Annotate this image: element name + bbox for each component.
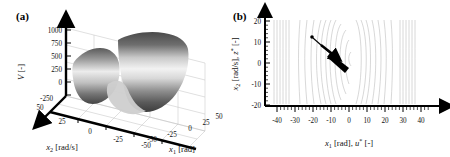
contour-x-tick-neg10: -10: [326, 117, 336, 125]
contour-x-tick-neg40: -40: [272, 117, 282, 125]
x1-tick-0: 0: [188, 125, 192, 133]
v-axis: [66, 26, 71, 96]
contour-y-tick-20: 20: [254, 18, 262, 26]
x1-tick-25: 25: [202, 119, 210, 127]
figure-container: (a): [0, 0, 450, 157]
v-tick-500: 500: [51, 53, 62, 61]
v-tick-neg250: -250: [40, 95, 54, 103]
x2-axis-label: x2 [rad/s]: [45, 142, 78, 153]
contour-x-axis: [265, 106, 441, 112]
cx-label-units: [rad],: [334, 138, 353, 148]
x2-tick-50: 50: [36, 104, 44, 112]
cy-label-units2: [-]: [230, 37, 240, 46]
x1-axis-label: x1 [rad]: [168, 144, 195, 155]
contour-x-tick-30: 30: [399, 117, 407, 125]
contour-y-tick-neg20: -20: [251, 102, 261, 110]
x1-tick-neg50: -50: [147, 136, 157, 144]
v-axis-label-units: [-]: [16, 64, 26, 73]
trajectory-arrow: [310, 35, 349, 73]
panel-a-label: (a): [16, 10, 29, 23]
x2-tick-25: 25: [58, 118, 66, 126]
svg-text:V [-]: V [-]: [16, 64, 26, 80]
x2-tick-neg25: -25: [113, 136, 123, 144]
v-tick-250: 250: [51, 66, 62, 74]
x2-tick-0: 0: [88, 128, 92, 136]
contour-x-tick-0: 0: [347, 117, 351, 125]
trajectory-arrowhead: [321, 45, 335, 56]
v-tick-1000: 1000: [48, 27, 63, 35]
contour-y-axis-label: x2 [rad/s], z* [-]: [229, 37, 241, 91]
x2-axis-label-units: [rad/s]: [55, 142, 78, 152]
x1-tick-50: 50: [215, 113, 223, 121]
contour-lines: [274, 20, 415, 104]
cy-label-units: [rad/s],: [230, 57, 240, 82]
v-axis-label: V [-]: [16, 64, 26, 80]
contour-x-axis-label: x1 [rad], u* [-]: [324, 137, 373, 149]
v-tick-750: 750: [51, 40, 62, 48]
x1-axis-label-units: [rad]: [178, 144, 195, 154]
contour-x-tick-neg30: -30: [290, 117, 300, 125]
contour-x-tick-20: 20: [381, 117, 389, 125]
v-tick-0: 0: [58, 79, 62, 87]
contour-y-axis: [265, 16, 270, 106]
contour-y-tick-10: 10: [254, 39, 262, 47]
contour-x-tick-40: 40: [417, 117, 425, 125]
contour-y-tick-0: 0: [257, 60, 261, 68]
panel-b-svg: (b): [225, 0, 450, 157]
panel-b-label: (b): [233, 10, 247, 23]
panel-b-contour-plot: (b): [225, 0, 450, 157]
contour-x-tick-neg20: -20: [308, 117, 318, 125]
cx-label-units2: [-]: [365, 138, 374, 148]
panel-a-svg: (a): [0, 0, 225, 157]
svg-text:x2 [rad/s], z* [-]: x2 [rad/s], z* [-]: [229, 37, 241, 91]
x1-tick-neg25: -25: [167, 131, 177, 139]
contour-x-tick-10: 10: [363, 117, 371, 125]
panel-a-surface-plot: (a): [0, 0, 225, 157]
contour-y-tick-neg10: -10: [251, 81, 261, 89]
